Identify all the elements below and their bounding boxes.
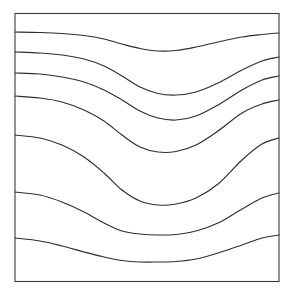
strata-diagram: [0, 0, 296, 298]
figure-container: [0, 0, 296, 298]
